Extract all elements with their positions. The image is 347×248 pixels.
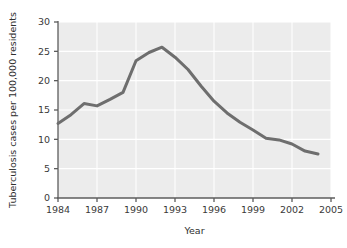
x-tick-label: 1990 bbox=[124, 204, 148, 215]
x-tick-label: 2002 bbox=[280, 204, 304, 215]
y-tick-label: 15 bbox=[38, 104, 50, 115]
x-tick-label: 2005 bbox=[319, 204, 343, 215]
y-tick-label: 5 bbox=[44, 163, 50, 174]
tuberculosis-line-chart: 0510152025301984198719901993199619992002… bbox=[0, 0, 347, 248]
x-tick-label: 1993 bbox=[163, 204, 187, 215]
y-tick-label: 0 bbox=[44, 192, 50, 203]
x-axis-ticks: 19841987199019931996199920022005 bbox=[46, 198, 343, 215]
x-tick-label: 1987 bbox=[85, 204, 109, 215]
y-tick-label: 25 bbox=[38, 46, 50, 57]
x-axis-title: Year bbox=[183, 225, 204, 236]
chart-canvas: 0510152025301984198719901993199619992002… bbox=[0, 0, 347, 248]
x-tick-label: 1984 bbox=[46, 204, 70, 215]
x-tick-label: 1999 bbox=[241, 204, 265, 215]
y-tick-label: 30 bbox=[38, 16, 50, 27]
x-tick-label: 1996 bbox=[202, 204, 226, 215]
y-tick-label: 20 bbox=[38, 75, 50, 86]
y-tick-label: 10 bbox=[38, 134, 50, 145]
y-axis-title: Tuberculosis cases per 100,000 residents bbox=[7, 12, 18, 209]
y-axis-ticks: 051015202530 bbox=[38, 16, 58, 203]
